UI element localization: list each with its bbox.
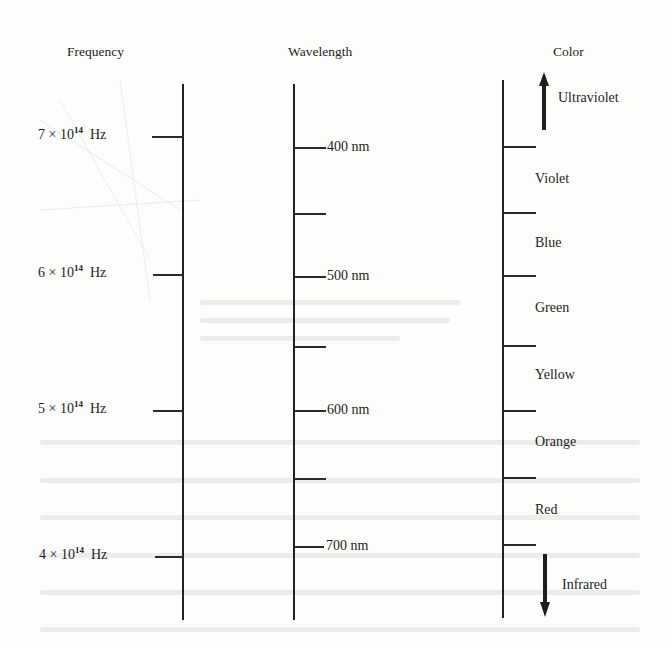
wavelength-tick-label: 500 nm <box>327 268 369 284</box>
color-boundary-tick <box>503 477 536 479</box>
color-band-label-orange: Orange <box>535 434 576 450</box>
up-arrow-icon <box>538 72 550 132</box>
frequency-tick <box>153 410 183 412</box>
wavelength-tick-minor <box>294 478 326 480</box>
color-band-label-green: Green <box>535 300 569 316</box>
down-arrow-icon <box>539 554 551 618</box>
wavelength-tick-minor <box>294 213 326 215</box>
frequency-tick <box>153 274 183 276</box>
frequency-header: Frequency <box>67 44 124 60</box>
frequency-tick-label: 7 × 1014 Hz <box>38 127 106 143</box>
wavelength-tick <box>294 276 326 278</box>
frequency-axis-line <box>182 84 184 620</box>
frequency-tick-label: 4 × 1014 Hz <box>39 547 107 563</box>
color-boundary-tick <box>503 345 536 347</box>
wavelength-tick-label: 700 nm <box>326 538 368 554</box>
color-axis-line <box>502 80 504 618</box>
wavelength-tick-label: 600 nm <box>327 402 369 418</box>
wavelength-tick <box>294 410 326 412</box>
frequency-tick-label: 5 × 1014 Hz <box>38 401 106 417</box>
wavelength-header: Wavelength <box>288 44 352 60</box>
color-band-label-violet: Violet <box>535 171 569 187</box>
frequency-tick-label: 6 × 1014 Hz <box>38 265 106 281</box>
color-boundary-tick <box>503 212 536 214</box>
color-boundary-tick <box>503 146 536 148</box>
color-boundary-tick <box>503 275 536 277</box>
ultraviolet-label: Ultraviolet <box>558 90 619 106</box>
color-band-label-red: Red <box>535 502 558 518</box>
color-header: Color <box>553 44 584 60</box>
wavelength-tick-minor <box>294 346 326 348</box>
color-boundary-tick <box>503 410 536 412</box>
wavelength-tick <box>294 546 324 548</box>
color-band-label-yellow: Yellow <box>535 367 575 383</box>
frequency-tick <box>152 136 183 138</box>
wavelength-tick <box>294 147 326 149</box>
color-band-label-blue: Blue <box>535 235 561 251</box>
wavelength-axis-line <box>293 84 295 620</box>
infrared-label: Infrared <box>562 577 607 593</box>
frequency-tick <box>155 556 183 558</box>
wavelength-tick-label: 400 nm <box>327 139 369 155</box>
color-boundary-tick <box>503 544 536 546</box>
